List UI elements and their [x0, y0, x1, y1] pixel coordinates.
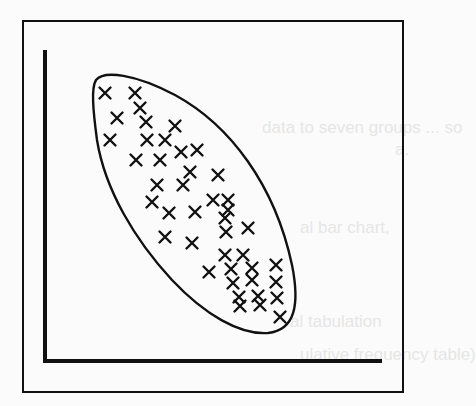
x-marker-icon: [147, 197, 158, 208]
data-points: [100, 88, 286, 323]
x-marker-icon: [141, 117, 152, 128]
x-marker-icon: [135, 103, 146, 114]
x-marker-icon: [213, 170, 224, 181]
x-marker-icon: [238, 250, 249, 261]
x-marker-icon: [131, 155, 142, 166]
x-marker-icon: [228, 278, 239, 289]
x-marker-icon: [187, 238, 198, 249]
x-marker-icon: [160, 135, 171, 146]
x-marker-icon: [105, 135, 116, 146]
x-marker-icon: [271, 277, 282, 288]
figure-frame: [23, 21, 403, 392]
x-marker-icon: [178, 180, 189, 191]
x-marker-icon: [170, 121, 181, 132]
x-marker-icon: [192, 145, 203, 156]
x-marker-icon: [247, 275, 258, 286]
x-marker-icon: [272, 293, 283, 304]
x-marker-icon: [235, 301, 246, 312]
x-marker-icon: [208, 195, 219, 206]
correlation-ellipse: [93, 75, 295, 333]
x-marker-icon: [155, 155, 166, 166]
x-marker-icon: [100, 88, 111, 99]
x-marker-icon: [271, 260, 282, 271]
x-marker-icon: [275, 312, 286, 323]
x-marker-icon: [190, 207, 201, 218]
x-marker-icon: [112, 113, 123, 124]
x-marker-icon: [226, 264, 237, 275]
x-marker-icon: [164, 208, 175, 219]
x-marker-icon: [223, 195, 234, 206]
x-marker-icon: [243, 223, 254, 234]
x-marker-icon: [220, 250, 231, 261]
x-marker-icon: [204, 267, 215, 278]
x-marker-icon: [160, 232, 171, 243]
x-marker-icon: [247, 263, 258, 274]
x-marker-icon: [130, 88, 141, 99]
x-marker-icon: [185, 167, 196, 178]
x-marker-icon: [255, 300, 266, 311]
x-marker-icon: [176, 147, 187, 158]
x-marker-icon: [142, 135, 153, 146]
x-marker-icon: [152, 180, 163, 191]
x-marker-icon: [221, 227, 232, 238]
